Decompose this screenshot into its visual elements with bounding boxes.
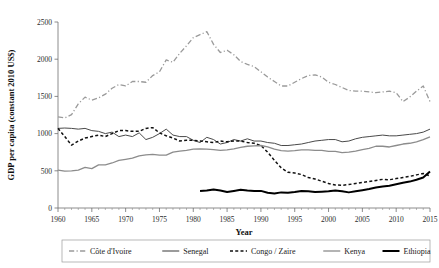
y-axis-ticks (55, 22, 59, 208)
y-axis-group: 05001000150020002500 (37, 18, 58, 213)
legend-label: Senegal (183, 247, 209, 256)
x-tick-label: 1965 (84, 215, 99, 224)
x-tick-label: 2000 (321, 215, 336, 224)
x-tick-label: 1980 (186, 215, 201, 224)
x-tick-label: 1975 (152, 215, 167, 224)
x-tick-label: 1970 (118, 215, 133, 224)
chart-canvas: 05001000150020002500 1960196519701975198… (0, 0, 439, 268)
legend-label: Ethiopia (404, 247, 432, 256)
legend-label: Kenya (344, 247, 365, 256)
gdp-per-capita-line-chart: 05001000150020002500 1960196519701975198… (0, 0, 439, 268)
x-tick-label: 1990 (253, 215, 268, 224)
y-tick-label: 500 (41, 167, 53, 176)
series-line-c-te-d-ivoire (58, 32, 430, 118)
y-tick-label: 0 (48, 204, 52, 213)
legend-label: Congo / Zaire (251, 247, 296, 256)
x-tick-label: 2010 (389, 215, 404, 224)
x-axis-ticks (58, 208, 430, 212)
chart-legend: Côte d'IvoireSenegalCongo / ZaireKenyaEt… (62, 240, 431, 262)
x-tick-label: 1995 (287, 215, 302, 224)
y-tick-label: 1500 (37, 92, 52, 101)
series-line-senegal (58, 128, 430, 145)
x-tick-label: 1960 (51, 215, 66, 224)
x-axis-group: 1960196519701975198019851990199520002005… (51, 208, 438, 224)
y-axis-title: GDP per capita (constant 2010 US$) (6, 49, 16, 180)
x-axis-title: Year (236, 227, 253, 237)
x-tick-label: 1985 (220, 215, 235, 224)
x-tick-label: 2005 (355, 215, 370, 224)
legend-entries: Côte d'IvoireSenegalCongo / ZaireKenyaEt… (69, 247, 431, 256)
x-tick-label: 2015 (423, 215, 438, 224)
series-line-ethiopia (200, 172, 430, 194)
y-tick-label: 2000 (37, 55, 52, 64)
legend-label: Côte d'Ivoire (90, 247, 132, 256)
x-axis-tick-labels: 1960196519701975198019851990199520002005… (51, 215, 438, 224)
y-tick-label: 1000 (37, 129, 52, 138)
y-tick-label: 2500 (37, 18, 52, 27)
series-lines (58, 32, 430, 194)
y-axis-tick-labels: 05001000150020002500 (37, 18, 52, 213)
